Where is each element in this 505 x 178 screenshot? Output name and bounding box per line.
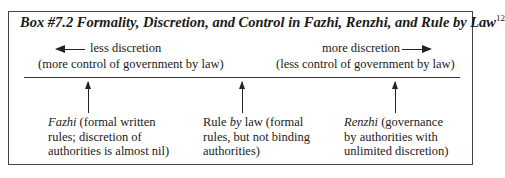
- renzhi-up-arrow-icon: [395, 82, 396, 113]
- less-discretion-label: less discretion: [90, 41, 161, 56]
- renzhi-line-3: unlimited discretion): [344, 144, 449, 159]
- more-discretion-label: more discretion: [322, 41, 400, 56]
- rule-by-law-up-arrow-icon: [242, 82, 243, 113]
- rule-by-law-line-2: rules, but not binding: [203, 130, 310, 145]
- left-arrow-icon: [57, 49, 85, 50]
- fazhi-description: Fazhi (formal written rules; discretion …: [48, 115, 169, 159]
- rule-by-law-term-suffix: law: [242, 115, 263, 129]
- renzhi-term: Renzhi: [344, 115, 378, 129]
- rule-by-law-term-prefix: Rule: [203, 115, 230, 129]
- right-arrow-icon: [402, 49, 430, 50]
- fazhi-up-arrow-icon: [88, 82, 89, 113]
- fazhi-line-1: (formal written: [80, 115, 156, 129]
- box-title: Box #7.2 Formality, Discretion, and Cont…: [20, 14, 505, 31]
- fazhi-line-3: authorities is almost nil): [48, 144, 169, 159]
- rule-by-law-line-3: authorities): [203, 144, 310, 159]
- box-title-text: Box #7.2 Formality, Discretion, and Cont…: [20, 14, 496, 30]
- rule-by-law-term-italic: by: [230, 115, 242, 129]
- renzhi-line-1: (governance: [381, 115, 443, 129]
- fazhi-line-2: rules; discretion of: [48, 130, 169, 145]
- less-control-label: (less control of government by law): [276, 57, 455, 72]
- renzhi-line-2: by authorities with: [344, 130, 449, 145]
- fazhi-term: Fazhi: [48, 115, 76, 129]
- renzhi-description: Renzhi (governance by authorities with u…: [344, 115, 449, 159]
- rule-by-law-description: Rule by law (formal rules, but not bindi…: [203, 115, 310, 159]
- discretion-scale-axis: [24, 77, 460, 78]
- more-control-label: (more control of government by law): [38, 57, 224, 72]
- footnote-marker: 12: [496, 13, 505, 23]
- rule-by-law-line-1: (formal: [266, 115, 303, 129]
